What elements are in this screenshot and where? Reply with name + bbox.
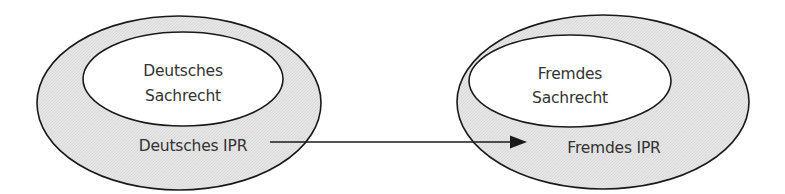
left-inner-label-line2: Sachrecht [145,87,221,105]
left-inner-label-line1: Deutsches [143,62,223,80]
ipr-diagram: Deutsches Sachrecht Deutsches IPR Fremde… [0,0,785,194]
right-legal-system: Fremdes Sachrecht Fremdes IPR [457,15,749,189]
right-inner-label-line2: Sachrecht [532,89,608,107]
right-inner-label-line1: Fremdes [538,65,603,83]
left-outer-label: Deutsches IPR [139,137,248,155]
right-outer-label: Fremdes IPR [567,139,661,157]
left-legal-system: Deutsches Sachrecht Deutsches IPR [37,16,321,190]
